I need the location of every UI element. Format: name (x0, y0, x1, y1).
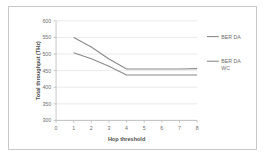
chart-legend: BER DA BER DA WC (207, 34, 241, 72)
x-tick-label: 0 (55, 125, 58, 131)
y-tick-label: 600 (42, 18, 51, 24)
x-axis-ticks (56, 120, 197, 122)
y-tick-label: 500 (42, 51, 51, 57)
legend-label: BER DA (221, 34, 241, 40)
line-chart: 600 550 500 450 400 350 300 0 1 2 3 4 5 … (9, 7, 256, 149)
x-tick-label: 6 (160, 125, 163, 131)
legend-label-line1: BER DA (221, 58, 241, 64)
y-tick-label: 400 (42, 84, 51, 90)
y-tick-label: 550 (42, 34, 51, 40)
chart-container: 600 550 500 450 400 350 300 0 1 2 3 4 5 … (8, 6, 257, 150)
x-tick-label: 5 (143, 125, 146, 131)
y-axis-title: Total throughput (THz) (35, 41, 41, 100)
legend-item-ber-da-wc[interactable]: BER DA WC (207, 58, 241, 71)
y-axis-ticks (54, 21, 56, 121)
x-tick-label: 1 (72, 125, 75, 131)
y-axis-tick-labels: 600 550 500 450 400 350 300 (42, 18, 51, 124)
legend-label-line2: WC (221, 65, 230, 71)
x-tick-label: 2 (90, 125, 93, 131)
y-tick-label: 450 (42, 68, 51, 74)
x-axis-title: Hop threshold (108, 136, 145, 142)
x-axis-tick-labels: 0 1 2 3 4 5 6 7 8 (55, 125, 199, 131)
x-tick-label: 3 (108, 125, 111, 131)
y-tick-label: 350 (42, 101, 51, 107)
y-tick-label: 300 (42, 117, 51, 123)
x-tick-label: 7 (178, 125, 181, 131)
legend-item-ber-da[interactable]: BER DA (207, 34, 241, 40)
x-tick-label: 4 (125, 125, 128, 131)
x-tick-label: 8 (196, 125, 199, 131)
